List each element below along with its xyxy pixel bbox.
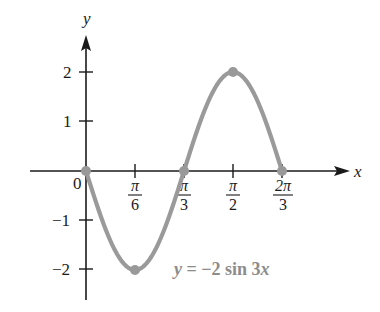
x-tick-label-pi-over-6: π 6 [128, 177, 142, 213]
equation-label: y = −2 sin 3x [172, 259, 270, 279]
x-tick-label-2pi-over-3: 2π 3 [273, 177, 293, 213]
y-tick-label-1: 1 [63, 112, 72, 131]
svg-text:π: π [229, 177, 238, 194]
x-tick-label-pi-over-2: π 2 [226, 177, 240, 213]
svg-text:6: 6 [131, 196, 139, 213]
sine-graph: x y 2 1 −1 −2 0 π 6 π 3 π 2 2π 3 [0, 0, 380, 312]
key-point [228, 67, 238, 77]
y-tick-label-2: 2 [63, 63, 72, 82]
svg-text:2π: 2π [275, 177, 292, 194]
x-axis-label: x [353, 162, 362, 181]
svg-text:3: 3 [279, 196, 287, 213]
y-tick-label-neg2: −2 [52, 260, 70, 279]
y-tick-label-neg1: −1 [52, 211, 70, 230]
svg-text:3: 3 [180, 196, 188, 213]
svg-text:2: 2 [229, 196, 237, 213]
key-point [277, 166, 287, 176]
key-point [179, 166, 189, 176]
key-point [130, 265, 140, 275]
y-axis-label: y [81, 9, 91, 28]
key-point [81, 166, 91, 176]
origin-label: 0 [73, 174, 82, 193]
svg-text:π: π [131, 177, 140, 194]
